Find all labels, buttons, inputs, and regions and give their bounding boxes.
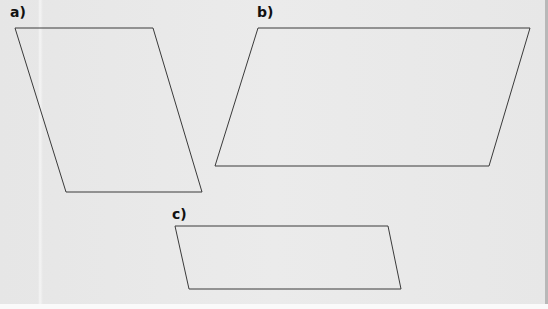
parallelogram-c <box>175 226 401 289</box>
label-c: c) <box>172 207 187 221</box>
label-b: b) <box>257 5 273 19</box>
parallelogram-a <box>15 28 202 192</box>
label-a: a) <box>10 5 26 19</box>
parallelogram-b <box>215 28 530 166</box>
figure-canvas: a) b) c) <box>0 0 548 309</box>
shapes-layer <box>0 0 548 309</box>
